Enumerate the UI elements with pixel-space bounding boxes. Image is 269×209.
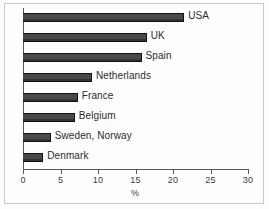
bar-category-label: Netherlands [96, 70, 151, 81]
axis-tick [23, 170, 24, 174]
axis-tick [136, 170, 137, 174]
axis-tick [98, 170, 99, 174]
bar-row: USA [23, 9, 263, 29]
axis-tick-label: 15 [130, 175, 140, 185]
bar-category-label: Denmark [47, 150, 88, 161]
axis-tick-label: 30 [243, 175, 253, 185]
axis-tick [173, 170, 174, 174]
bar-row: Netherlands [23, 69, 263, 89]
bar-row: Belgium [23, 109, 263, 129]
bar-category-label: Spain [146, 50, 172, 61]
axis-tick [211, 170, 212, 174]
bar-category-label: France [82, 90, 114, 101]
bar-category-label: Sweden, Norway [55, 130, 132, 141]
axis-tick-label: 5 [58, 175, 63, 185]
bar [23, 73, 92, 82]
bar-row: Spain [23, 49, 263, 69]
bar [23, 113, 75, 122]
axis-tick-label: 0 [20, 175, 25, 185]
bar [23, 93, 78, 102]
bar [23, 133, 51, 142]
bar [23, 53, 142, 62]
bar-category-label: UK [151, 30, 165, 41]
bar-chart-figure: 051015202530 USAUKSpainNetherlandsFrance… [0, 0, 269, 209]
bar-row: Denmark [23, 149, 263, 169]
bar [23, 13, 184, 22]
bar-row: Sweden, Norway [23, 129, 263, 149]
axis-tick [61, 170, 62, 174]
axis-tick-label: 25 [205, 175, 215, 185]
axis-tick [248, 170, 249, 174]
x-axis-label: % [131, 188, 139, 198]
axis-tick-label: 20 [168, 175, 178, 185]
axis-tick-label: 10 [93, 175, 103, 185]
bar-category-label: USA [188, 10, 209, 21]
bar-row: UK [23, 29, 263, 49]
bar [23, 33, 147, 42]
bar-category-label: Belgium [79, 110, 116, 121]
bar-row: France [23, 89, 263, 109]
bar [23, 153, 43, 162]
